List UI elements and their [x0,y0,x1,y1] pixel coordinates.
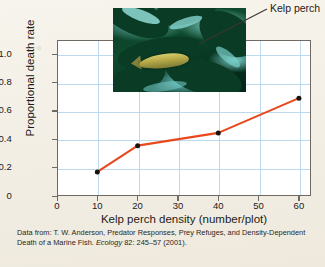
data-point-marker [135,143,140,148]
x-axis-tick-mark [298,196,299,201]
x-axis-tick-label: 40 [205,200,231,211]
caption-text-post: 82: 245–57 (2001). [122,238,187,247]
caption-journal-name: Ecology [96,238,122,247]
annotation-label: Kelp perch [270,2,320,14]
x-axis-tick-mark [137,196,138,201]
x-axis-tick-label: 30 [165,200,191,211]
figure-caption: Data from: T. W. Anderson, Predator Resp… [17,228,309,249]
x-axis-tick-mark [218,196,219,201]
y-axis-tick-label: 0.8 [0,76,12,87]
y-axis-tick-label: 1.0 [0,48,12,59]
series-line [97,98,299,172]
data-point-marker [95,169,100,174]
x-axis-tick-label: 50 [246,200,272,211]
x-axis-tick-mark [57,196,58,201]
x-axis-tick-mark [258,196,259,201]
data-point-marker [296,96,301,101]
x-axis-title: Kelp perch density (number/plot) [57,213,311,225]
y-axis-tick-label: 0.2 [0,161,12,172]
x-axis-tick-label: 20 [125,200,151,211]
x-axis-tick-label: 0 [44,200,70,211]
y-axis-title: Proportional death rate [24,10,36,146]
x-axis-tick-label: 10 [84,200,110,211]
kelp-perch-photo [113,8,246,92]
data-point-marker [216,130,221,135]
x-axis-tick-mark [177,196,178,201]
y-axis-tick-label: 0.4 [0,133,12,144]
x-axis-tick-mark [97,196,98,201]
figure-container: 00.20.40.60.81.00102030405060 Proportion… [0,0,325,267]
x-axis-tick-label: 60 [286,200,312,211]
y-axis-tick-label: 0 [7,190,12,201]
y-axis-tick-label: 0.6 [0,104,12,115]
